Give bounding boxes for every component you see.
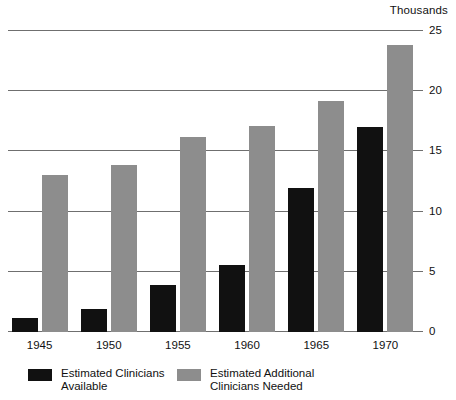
legend-entry-1: Estimated Clinicians Available (28, 367, 165, 392)
bar-chart: Thousands 0510152025 1945195019551960196… (0, 0, 456, 400)
bar-1950-series-1 (81, 309, 107, 332)
y-tick-label-5: 5 (429, 266, 435, 278)
x-tick-label-1970: 1970 (373, 339, 399, 351)
bar-1970-series-1 (357, 127, 383, 332)
x-tick-label-1965: 1965 (303, 339, 329, 351)
legend-swatch-2 (177, 369, 201, 381)
bar-1955-series-2 (180, 137, 206, 332)
legend-entry-2: Estimated Additional Clinicians Needed (177, 367, 314, 392)
bar-1945-series-2 (42, 175, 68, 332)
bar-1960-series-2 (249, 126, 275, 332)
bar-1965-series-1 (288, 188, 314, 332)
legend-label-1: Estimated Clinicians Available (61, 367, 165, 392)
bar-1965-series-2 (318, 101, 344, 332)
bar-1960-series-1 (219, 265, 245, 332)
bar-1970-series-2 (387, 45, 413, 332)
y-tick-label-0: 0 (429, 326, 435, 338)
x-tick-label-1955: 1955 (165, 339, 191, 351)
y-tick-label-10: 10 (429, 206, 442, 218)
y-tick-label-20: 20 (429, 85, 442, 97)
legend-swatch-1 (28, 369, 52, 381)
bar-1955-series-1 (150, 285, 176, 332)
legend-label-2: Estimated Additional Clinicians Needed (210, 367, 314, 392)
chart-legend: Estimated Clinicians AvailableEstimated … (0, 367, 456, 400)
x-tick-label-1960: 1960 (234, 339, 260, 351)
x-tick-label-1950: 1950 (96, 339, 122, 351)
units-caption: Thousands (390, 4, 448, 16)
y-tick-label-15: 15 (429, 146, 442, 158)
bar-1945-series-1 (12, 318, 38, 332)
bars-layer (8, 31, 423, 332)
y-tick-label-25: 25 (429, 25, 442, 37)
bar-1950-series-2 (111, 165, 137, 332)
x-tick-label-1945: 1945 (27, 339, 53, 351)
